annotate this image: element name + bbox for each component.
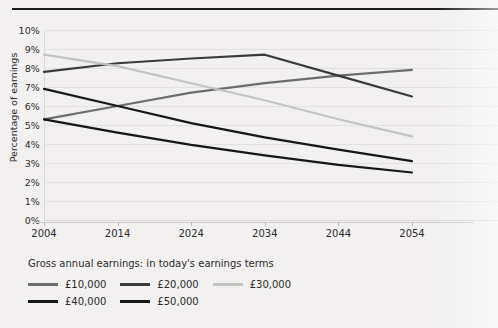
legend-label: £40,000 [65, 296, 106, 307]
x-axis-tick-label: 2024 [178, 228, 203, 239]
y-axis-tick-label: 1% [25, 196, 40, 207]
legend-swatch [120, 283, 150, 286]
x-axis-tickmark [191, 222, 192, 226]
series-line [44, 119, 412, 172]
gridline [44, 220, 498, 221]
legend-label: £10,000 [65, 279, 106, 290]
x-axis-tickmark [44, 222, 45, 226]
x-axis-tickmark [265, 222, 266, 226]
x-axis-tick-label: 2034 [252, 228, 277, 239]
x-axis-tick-label: 2054 [399, 228, 424, 239]
x-axis-tickmark [338, 222, 339, 226]
x-axis-tick-label: 2044 [326, 228, 351, 239]
y-axis-tick-label: 4% [25, 139, 40, 150]
legend-row: £40,000£50,000 [28, 296, 468, 307]
y-axis-tick-labels: 0%1%2%3%4%5%6%7%8%9%10% [0, 30, 40, 220]
legend-swatch [120, 300, 150, 303]
legend-rows: £10,000£20,000£30,000£40,000£50,000 [28, 279, 468, 307]
y-axis-tick-label: 9% [25, 44, 40, 55]
legend-item[interactable]: £20,000 [120, 279, 198, 290]
legend-item[interactable]: £40,000 [28, 296, 106, 307]
legend-swatch [28, 283, 58, 286]
legend-item[interactable]: £50,000 [120, 296, 198, 307]
legend: Gross annual earnings: in today's earnin… [28, 258, 468, 313]
y-axis-tick-label: 8% [25, 63, 40, 74]
x-axis-line [32, 222, 474, 223]
legend-swatch [28, 300, 58, 303]
legend-title: Gross annual earnings: in today's earnin… [28, 258, 468, 269]
y-axis-tick-label: 10% [19, 25, 40, 36]
legend-label: £20,000 [157, 279, 198, 290]
legend-row: £10,000£20,000£30,000 [28, 279, 468, 290]
y-axis-tick-label: 6% [25, 101, 40, 112]
x-axis-tick-labels: 200420142024203420442054 [44, 228, 498, 246]
x-axis-tick-label: 2004 [31, 228, 56, 239]
line-chart: Percentage of earnings 0%1%2%3%4%5%6%7%8… [0, 18, 498, 238]
legend-label: £30,000 [250, 279, 291, 290]
y-axis-tick-label: 7% [25, 82, 40, 93]
y-axis-tick-label: 5% [25, 120, 40, 131]
chart-page: Percentage of earnings 0%1%2%3%4%5%6%7%8… [0, 0, 498, 328]
y-axis-tick-label: 3% [25, 158, 40, 169]
y-axis-tick-label: 2% [25, 177, 40, 188]
x-axis-tickmark [118, 222, 119, 226]
plot-area [44, 30, 498, 220]
series-line [44, 55, 412, 97]
series-line [44, 55, 412, 137]
header-divider [12, 8, 498, 10]
x-axis-tick-label: 2014 [105, 228, 130, 239]
y-axis-tick-label: 0% [25, 215, 40, 226]
series-lines [44, 30, 498, 220]
series-line [44, 70, 412, 119]
legend-item[interactable]: £30,000 [213, 279, 291, 290]
x-axis-tickmark [412, 222, 413, 226]
legend-item[interactable]: £10,000 [28, 279, 106, 290]
legend-swatch [213, 283, 243, 286]
legend-label: £50,000 [157, 296, 198, 307]
